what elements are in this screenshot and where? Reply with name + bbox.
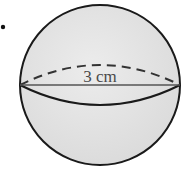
sphere-diagram: 3 cm bbox=[0, 0, 190, 171]
diameter-label: 3 cm bbox=[83, 67, 117, 86]
bullet-dot bbox=[1, 25, 5, 29]
